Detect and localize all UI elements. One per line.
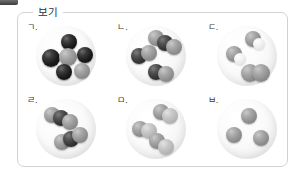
panel-g: ㄱ. xyxy=(18,19,108,92)
molecule xyxy=(217,99,277,159)
panel-n: ㄴ. xyxy=(108,19,198,92)
atom-lgray xyxy=(158,139,174,155)
molecule xyxy=(217,26,277,86)
panel-m: ㅁ. xyxy=(108,92,198,165)
atom-gray xyxy=(158,66,174,82)
panel-r: ㄹ. xyxy=(18,92,108,165)
panel-m-label: ㅁ. xyxy=(117,95,128,105)
atom-gray xyxy=(252,64,270,82)
panel-d-label: ㄷ. xyxy=(208,22,219,32)
panel-m-vessel xyxy=(126,99,186,159)
panel-d: ㄷ. xyxy=(199,19,289,92)
panel-d-vessel xyxy=(217,26,277,86)
bogi-box: 보기 ㄱ.ㄴ.ㄷ.ㄹ.ㅁ.ㅂ. xyxy=(17,12,288,167)
molecule xyxy=(36,26,96,86)
panel-b-vessel xyxy=(217,99,277,159)
panel-g-atoms xyxy=(36,26,96,86)
panel-n-vessel xyxy=(126,26,186,86)
panel-g-label: ㄱ. xyxy=(27,22,38,32)
panel-m-atoms xyxy=(126,99,186,159)
panel-d-atoms xyxy=(217,26,277,86)
panel-r-label: ㄹ. xyxy=(27,95,38,105)
molecule xyxy=(36,99,96,159)
molecule xyxy=(126,26,186,86)
atom-gray xyxy=(253,130,269,146)
panel-r-atoms xyxy=(36,99,96,159)
panel-b-atoms xyxy=(217,99,277,159)
atom-gray xyxy=(74,63,90,79)
atom-gray xyxy=(72,127,88,143)
panel-b-label: ㅂ. xyxy=(208,95,219,105)
bogi-legend-label: 보기 xyxy=(33,5,63,20)
panel-r-vessel xyxy=(36,99,96,159)
panel-n-atoms xyxy=(126,26,186,86)
panel-g-vessel xyxy=(36,26,96,86)
molecule-panel-grid: ㄱ.ㄴ.ㄷ.ㄹ.ㅁ.ㅂ. xyxy=(18,19,289,164)
panel-n-label: ㄴ. xyxy=(117,22,128,32)
molecule xyxy=(126,99,186,159)
cropped-top-bar-artifact xyxy=(0,0,18,5)
panel-b: ㅂ. xyxy=(199,92,289,165)
